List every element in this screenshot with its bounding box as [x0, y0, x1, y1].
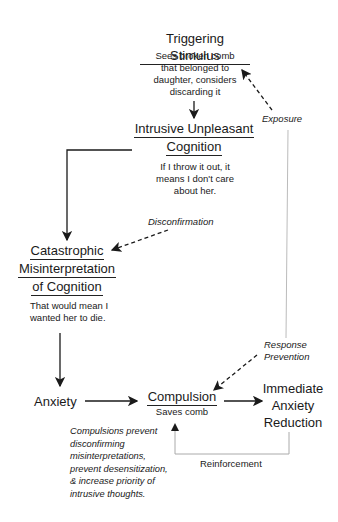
- title-line: Immediate: [258, 380, 328, 397]
- edge-label-reinforcement: Reinforcement: [200, 458, 262, 469]
- title-line: Reduction: [258, 414, 328, 431]
- node-immediate-anxiety-reduction: Immediate Anxiety Reduction: [258, 380, 328, 431]
- title-line: Anxiety: [258, 397, 328, 414]
- title-line: Misinterpretation: [18, 260, 116, 278]
- title-line: Intrusive Unpleasant: [134, 120, 255, 138]
- body-line: Sees broken comb: [140, 50, 250, 62]
- note-line: misinterpretations,: [70, 450, 168, 463]
- node-compulsion-body: Saves comb: [142, 406, 222, 418]
- title-line: Compulsion: [147, 388, 218, 406]
- node-triggering-stimulus-body: Sees broken comb that belonged to daught…: [140, 50, 250, 98]
- label-line: Prevention: [264, 351, 309, 363]
- body-line: discarding it: [140, 86, 250, 98]
- compulsion-note: Compulsions prevent disconfirming misint…: [70, 425, 168, 500]
- title-line: Cognition: [166, 138, 223, 156]
- node-compulsion-title: Compulsion: [142, 388, 222, 406]
- body-line: daughter, considers: [140, 74, 250, 86]
- body-line: That would mean I: [30, 300, 108, 312]
- body-line: about her.: [140, 185, 250, 197]
- node-anxiety: Anxiety: [34, 393, 77, 410]
- label-line: Response: [264, 339, 309, 351]
- note-line: Compulsions prevent: [70, 425, 168, 438]
- edge-label-exposure: Exposure: [262, 113, 302, 124]
- body-line: wanted her to die.: [30, 312, 108, 324]
- body-line: means I don't care: [140, 173, 250, 185]
- edge-label-disconfirmation: Disconfirmation: [148, 216, 213, 227]
- node-catastrophic-misinterpretation-title: Catastrophic Misinterpretation of Cognit…: [12, 242, 122, 296]
- title-line: Catastrophic: [30, 242, 105, 260]
- node-intrusive-cognition-body: If I throw it out, it means I don't care…: [140, 161, 250, 197]
- note-line: intrusive thoughts.: [70, 488, 168, 501]
- edge-label-response-prevention: Response Prevention: [264, 339, 309, 363]
- body-line: that belonged to: [140, 62, 250, 74]
- note-line: prevent desensitization,: [70, 463, 168, 476]
- note-line: & increase priority of: [70, 475, 168, 488]
- note-line: disconfirming: [70, 438, 168, 451]
- node-intrusive-cognition-title: Intrusive Unpleasant Cognition: [128, 120, 260, 156]
- body-line: If I throw it out, it: [140, 161, 250, 173]
- title-line: of Cognition: [31, 278, 102, 296]
- node-catastrophic-misinterpretation-body: That would mean I wanted her to die.: [30, 300, 108, 324]
